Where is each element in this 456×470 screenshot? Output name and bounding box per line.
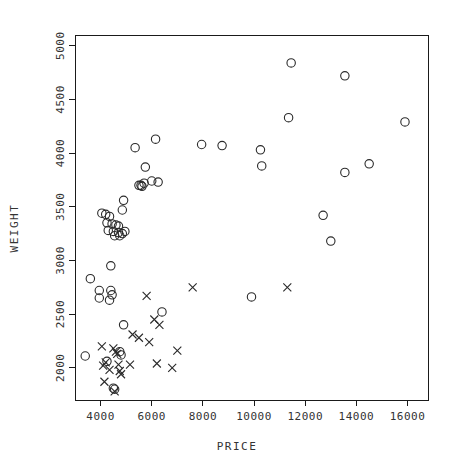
x-axis-title: PRICE: [217, 440, 258, 453]
y-tick-label: 2500: [54, 300, 67, 329]
y-axis-title: WEIGHT: [8, 204, 21, 253]
x-tick-label: 6000: [137, 410, 166, 423]
y-tick-label: 5000: [54, 31, 67, 60]
y-tick-label: 4000: [54, 139, 67, 168]
scatter-plot-figure: 40006000800010000120001400016000 2000250…: [0, 0, 456, 470]
y-tick-label: 3500: [54, 193, 67, 222]
y-tick-label: 2000: [54, 354, 67, 383]
x-tick-label: 16000: [390, 410, 426, 423]
x-tick-label: 8000: [189, 410, 218, 423]
scatter-plot-canvas: 40006000800010000120001400016000 2000250…: [0, 0, 456, 470]
x-tick-label: 14000: [339, 410, 375, 423]
x-tick-label: 10000: [236, 410, 272, 423]
x-tick-label: 12000: [287, 410, 323, 423]
y-tick-label: 4500: [54, 85, 67, 114]
y-tick-label: 3000: [54, 246, 67, 275]
x-tick-label: 4000: [86, 410, 115, 423]
